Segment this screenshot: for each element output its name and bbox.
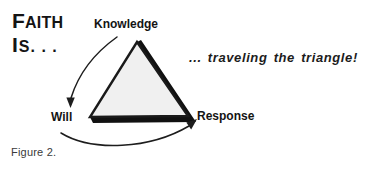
tagline-text: ... traveling the triangle! <box>189 50 358 65</box>
title-faith-rest: AITH <box>25 14 63 31</box>
title-is-initial: I <box>12 33 19 56</box>
node-label-will: Will <box>51 110 72 124</box>
title-is-rest: S. . . <box>19 38 58 55</box>
node-label-knowledge: Knowledge <box>94 17 158 31</box>
triangle-body <box>90 42 188 117</box>
figure-caption: Figure 2. <box>11 146 56 158</box>
title-line-is: IS. . . <box>12 34 63 56</box>
node-label-response: Response <box>197 109 254 123</box>
title-line-faith: FAITH <box>12 10 63 32</box>
page-title: FAITH IS. . . <box>12 10 63 56</box>
arrow-will-to-response-icon <box>61 119 197 145</box>
figure-canvas: FAITH IS. . . Knowledge Will Response ..… <box>0 0 365 172</box>
title-faith-initial: F <box>12 9 25 32</box>
